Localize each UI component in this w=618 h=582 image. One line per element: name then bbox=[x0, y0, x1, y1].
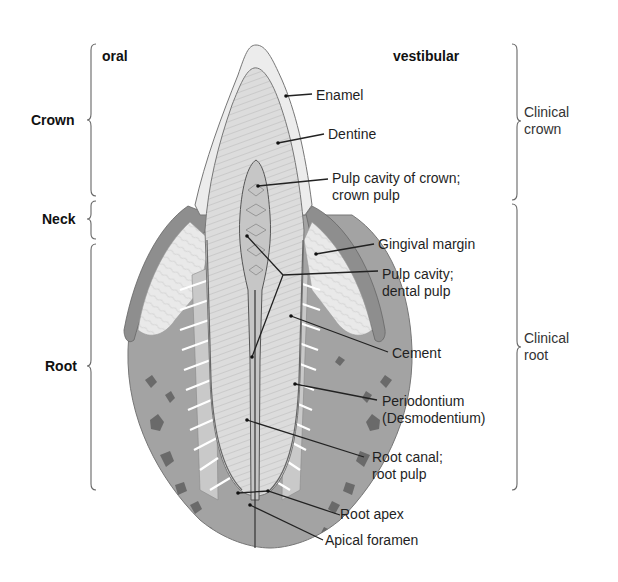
enamel-label: Enamel bbox=[316, 87, 363, 104]
root-canal-label: Root canal; root pulp bbox=[372, 449, 443, 483]
vestibular-label: vestibular bbox=[393, 48, 459, 65]
clinical-root-line1: Clinical bbox=[524, 330, 569, 347]
brace-clinical-crown bbox=[512, 44, 521, 200]
oral-label: oral bbox=[102, 48, 128, 65]
tooth-section-diagram bbox=[0, 0, 618, 582]
root-canal-line2: root pulp bbox=[372, 466, 443, 483]
periodontium-line2: (Desmodentium) bbox=[382, 410, 485, 427]
brace-neck bbox=[87, 201, 96, 239]
root-canal-line1: Root canal; bbox=[372, 449, 443, 466]
clinical-crown-line1: Clinical bbox=[524, 104, 569, 121]
dental-pulp-line1: Pulp cavity; bbox=[382, 266, 454, 283]
clinical-root-line2: root bbox=[524, 347, 569, 364]
cement-label: Cement bbox=[392, 345, 441, 362]
crown-pulp-line1: Pulp cavity of crown; bbox=[332, 170, 460, 187]
gingival-margin-label: Gingival margin bbox=[378, 236, 475, 253]
brace-root bbox=[87, 244, 96, 490]
root-label: Root bbox=[45, 358, 77, 375]
apical-foramen-label: Apical foramen bbox=[325, 532, 418, 549]
periodontium-line1: Periodontium bbox=[382, 393, 485, 410]
periodontium-label: Periodontium (Desmodentium) bbox=[382, 393, 485, 427]
clinical-crown-line2: crown bbox=[524, 121, 569, 138]
crown-label: Crown bbox=[31, 112, 75, 129]
crown-pulp-label: Pulp cavity of crown; crown pulp bbox=[332, 170, 460, 204]
left-braces bbox=[87, 44, 96, 490]
neck-label: Neck bbox=[42, 211, 75, 228]
dental-pulp-line2: dental pulp bbox=[382, 283, 454, 300]
clinical-crown-label: Clinical crown bbox=[524, 104, 569, 138]
clinical-root-label: Clinical root bbox=[524, 330, 569, 364]
root-apex-label: Root apex bbox=[340, 506, 404, 523]
dentine-label: Dentine bbox=[328, 126, 376, 143]
dental-pulp-label: Pulp cavity; dental pulp bbox=[382, 266, 454, 300]
brace-clinical-root bbox=[512, 204, 521, 490]
right-braces bbox=[512, 44, 521, 490]
crown-pulp-line2: crown pulp bbox=[332, 187, 460, 204]
brace-crown bbox=[87, 44, 96, 196]
